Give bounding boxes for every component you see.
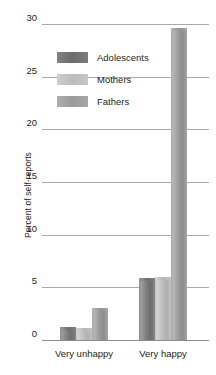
y-tick-label-20: 20: [26, 118, 37, 128]
legend-item-adolescents: Adolescents: [57, 50, 177, 65]
legend-item-mothers: Mothers: [57, 72, 177, 87]
bar-body: [60, 330, 76, 340]
bar-adolescents-very-happy: [139, 278, 155, 340]
y-tick-label-5: 5: [32, 276, 37, 286]
bar-body: [139, 281, 155, 340]
x-axis-label-very-happy: Very happy: [139, 348, 187, 359]
bar-mothers-very-happy: [155, 277, 171, 340]
bar-body: [76, 331, 92, 340]
legend-label-mothers: Mothers: [97, 74, 131, 85]
y-tick-label-0: 0: [32, 329, 37, 339]
legend-label-adolescents: Adolescents: [97, 52, 149, 63]
legend-item-fathers: Fathers: [57, 94, 177, 109]
gridline-0: 0: [42, 340, 209, 341]
bar-fathers-very-unhappy: [92, 308, 108, 340]
y-tick-label-15: 15: [26, 171, 37, 181]
y-tick-label-10: 10: [26, 224, 37, 234]
y-axis-title: Percent of self-reports: [23, 115, 33, 275]
legend-swatch-adolescents: [57, 52, 88, 63]
bar-body: [92, 311, 108, 340]
bar-body: [155, 280, 171, 340]
y-tick-label-25: 25: [26, 66, 37, 76]
y-tick-label-30: 30: [26, 13, 37, 23]
legend-label-fathers: Fathers: [97, 96, 129, 107]
bar-mothers-very-unhappy: [76, 328, 92, 340]
legend-swatch-mothers: [57, 74, 88, 85]
bar-adolescents-very-unhappy: [60, 327, 76, 340]
gridline-30: 30: [42, 24, 209, 25]
chart-legend: Adolescents Mothers Fathers: [57, 50, 177, 116]
x-axis-labels: Very unhappyVery happy: [42, 348, 209, 364]
legend-swatch-fathers: [57, 96, 88, 107]
x-axis-label-very-unhappy: Very unhappy: [55, 348, 113, 359]
bar-chart: Percent of self-reports 051015202530 Ado…: [0, 0, 216, 375]
